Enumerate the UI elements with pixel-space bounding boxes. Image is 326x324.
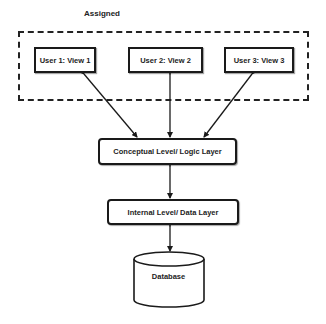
user3-view3-box: User 3: View 3 — [224, 47, 294, 73]
database-label: Database — [133, 272, 204, 281]
internal-data-layer-box: Internal Level/ Data Layer — [107, 199, 239, 225]
user2-view2-box: User 2: View 2 — [128, 47, 203, 73]
user1-view1-box: User 1: View 1 — [34, 47, 96, 73]
arrow-user3-to-conceptual — [204, 74, 252, 137]
three-level-architecture-diagram: Assigned User 1: View 1 User 2: View 2 U… — [0, 0, 326, 324]
conceptual-logic-layer-box: Conceptual Level/ Logic Layer — [98, 138, 237, 165]
arrow-user1-to-conceptual — [84, 74, 137, 137]
